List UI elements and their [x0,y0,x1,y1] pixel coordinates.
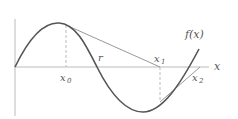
svg-text:1: 1 [161,58,165,66]
root-label: r [98,52,104,63]
svg-text:2: 2 [198,77,204,85]
svg-text:0: 0 [67,77,72,85]
svg-text:x: x [192,72,198,83]
tangent-line-x0 [66,25,160,67]
x1-label: x 1 [154,53,165,66]
svg-text:x: x [154,53,160,64]
x0-label: x 0 [60,72,72,85]
svg-text:x: x [60,72,66,83]
newton-method-diagram: f(x) x r x 0 x 1 x 2 [0,0,238,119]
x2-label: x 2 [192,72,204,85]
x-axis-label: x [214,60,221,73]
function-label: f(x) [184,28,204,41]
